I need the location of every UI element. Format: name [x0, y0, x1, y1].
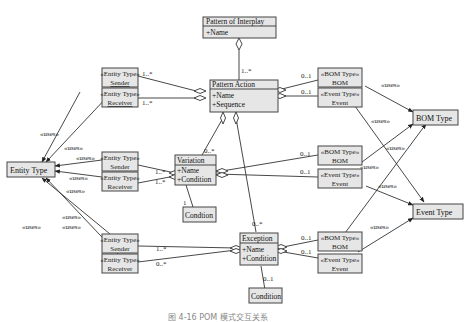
uses-label: «uses» — [378, 182, 398, 190]
role-pa-bom[interactable]: «BOM Type» BOM — [318, 68, 362, 87]
role-name: Event — [332, 265, 348, 273]
stereotype: «Entity Type» — [100, 70, 140, 78]
class-variation[interactable]: Variation +Name +Condition — [175, 155, 216, 185]
class-name: Entity Type — [10, 166, 48, 175]
uses-label: «uses» — [64, 144, 84, 152]
class-name: Exception — [242, 234, 273, 243]
mult-pa-variation: 0..* — [204, 147, 215, 155]
mult-exc-condition: 0..1 — [263, 275, 274, 283]
mult-var-sender: 1..* — [155, 168, 166, 176]
mult-var-bom: 0..1 — [300, 150, 311, 158]
mult-exc-receiver: 0..* — [156, 260, 167, 268]
class-attr: +Condition — [242, 254, 276, 263]
class-event-type[interactable]: Event Type — [413, 204, 463, 219]
stereotype: «Entity Type» — [100, 154, 140, 162]
role-name: Receiver — [108, 265, 134, 273]
class-name: Condition — [251, 292, 281, 301]
role-exc-sender[interactable]: «Entity Type» Sender — [100, 234, 140, 253]
stereotype: «BOM Type» — [321, 148, 360, 156]
role-name: Receiver — [108, 183, 134, 191]
mult-pa-event: 0..1 — [301, 88, 312, 96]
class-attr: +Condition — [177, 175, 211, 184]
stereotype: «Event Type» — [321, 90, 360, 98]
class-condition-variation[interactable]: Condtion — [183, 207, 216, 222]
class-name: Pattern Action — [212, 80, 255, 89]
role-name: BOM — [332, 243, 349, 251]
mult-pa-receiver: 1..* — [142, 99, 153, 107]
class-attr: +Name — [206, 28, 229, 37]
stereotype: «Entity Type» — [100, 256, 140, 264]
mult-var-receiver: 1..* — [155, 178, 166, 186]
uml-class-diagram: Pattern of Interplay +Name Pattern Actio… — [0, 0, 469, 322]
class-exception[interactable]: Exception +Name +Condition — [240, 233, 278, 265]
role-name: BOM — [332, 157, 349, 165]
uses-label: «uses» — [76, 154, 96, 162]
uses-label: «uses» — [69, 174, 89, 182]
uses-label: «uses» — [40, 130, 60, 138]
uses-label: «uses» — [22, 223, 42, 231]
stereotype: «Event Type» — [321, 256, 360, 264]
role-pa-event[interactable]: «Event Type» Event — [318, 88, 362, 107]
class-pattern-of-interplay[interactable]: Pattern of Interplay +Name — [203, 17, 276, 38]
role-exc-event[interactable]: «Event Type» Event — [318, 254, 362, 273]
role-pa-receiver[interactable]: «Entity Type» Receiver — [100, 88, 140, 107]
role-name: Receiver — [108, 99, 134, 107]
role-name: BOM — [332, 79, 349, 87]
uses-label: «uses» — [66, 187, 86, 195]
stereotype: «Entity Type» — [100, 236, 140, 244]
mult-pa-sender: 1..* — [142, 70, 153, 78]
role-exc-bom[interactable]: «BOM Type» BOM — [318, 232, 362, 251]
role-exc-receiver[interactable]: «Entity Type» Receiver — [100, 254, 140, 273]
class-name: Condtion — [185, 211, 213, 220]
class-attr: +Name — [242, 245, 265, 254]
role-name: Sender — [110, 245, 130, 253]
mult-exc-bom: 0..1 — [301, 234, 312, 242]
class-name: Pattern of Interplay — [206, 17, 265, 26]
stereotype: «Entity Type» — [100, 174, 140, 182]
stereotype: «BOM Type» — [321, 234, 360, 242]
uses-label: «uses» — [386, 144, 406, 152]
class-name: Event Type — [416, 208, 453, 217]
role-pa-sender[interactable]: «Entity Type» Sender — [100, 68, 140, 87]
stereotype: «Entity Type» — [100, 90, 140, 98]
stereotype: «Event Type» — [321, 171, 360, 179]
uses-label: «uses» — [62, 213, 82, 221]
class-name: BOM Type — [416, 114, 452, 123]
uses-label: «uses» — [381, 81, 401, 89]
class-entity-type[interactable]: Entity Type — [7, 162, 55, 177]
mult-pa-exception: 0..* — [252, 220, 263, 228]
role-name: Sender — [110, 79, 130, 87]
role-var-event[interactable]: «Event Type» Event — [318, 169, 362, 188]
class-attr: +Name — [212, 91, 235, 100]
class-attr: +Name — [177, 166, 200, 175]
mult-exc-event: 0..1 — [301, 248, 312, 256]
role-name: Event — [332, 180, 348, 188]
class-pattern-action[interactable]: Pattern Action +Name +Sequence — [210, 80, 278, 112]
mult-poi-pa: 1..* — [241, 67, 252, 75]
stereotype: «BOM Type» — [321, 70, 360, 78]
class-bom-type[interactable]: BOM Type — [413, 110, 458, 125]
mult-var-condition: 1 — [183, 199, 187, 207]
role-name: Sender — [110, 163, 130, 171]
role-var-sender[interactable]: «Entity Type» Sender — [100, 152, 140, 171]
uses-label: «uses» — [371, 117, 391, 125]
mult-exc-sender: 1..* — [156, 245, 167, 253]
mult-var-event: 0..1 — [300, 168, 311, 176]
role-var-bom[interactable]: «BOM Type» BOM — [318, 146, 362, 165]
uses-label: «uses» — [62, 223, 82, 231]
uses-label: «uses» — [370, 223, 390, 231]
class-attr: +Sequence — [212, 100, 246, 109]
role-var-receiver[interactable]: «Entity Type» Receiver — [100, 172, 140, 191]
uses-label: «uses» — [360, 163, 380, 171]
role-name: Event — [332, 99, 348, 107]
figure-caption: 图 4-16 POM 模式交互关系 — [168, 312, 268, 322]
class-condition-exception[interactable]: Condition — [249, 288, 282, 303]
class-name: Variation — [177, 156, 205, 165]
mult-pa-bom: 0..1 — [301, 72, 312, 80]
